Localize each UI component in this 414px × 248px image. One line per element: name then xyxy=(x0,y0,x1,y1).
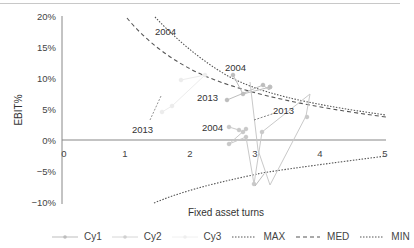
annotation-cy2-2004: 2004 xyxy=(202,122,223,133)
x-axis-label: Fixed asset turns xyxy=(188,207,264,218)
y-tick: 15% xyxy=(37,42,57,53)
legend-label: Cy2 xyxy=(144,231,162,242)
cy2-connector xyxy=(255,174,264,186)
legend-label: MED xyxy=(327,231,349,242)
cy2-leader xyxy=(254,113,275,120)
cy2-series xyxy=(227,82,310,186)
legend: Cy1 Cy2 Cy3 MAX MED MIN xyxy=(52,231,414,242)
max-swatch-icon xyxy=(231,233,257,241)
cy3-leader xyxy=(150,96,161,120)
x-tick: 5 xyxy=(382,148,387,159)
legend-item-max: MAX xyxy=(231,231,285,242)
legend-label: Cy1 xyxy=(84,231,102,242)
x-tick: 0 xyxy=(61,148,66,159)
legend-item-med: MED xyxy=(295,231,349,242)
x-tick: 1 xyxy=(122,148,127,159)
legend-label: MAX xyxy=(263,231,285,242)
cy2-swatch-icon xyxy=(112,233,138,241)
x-tick: 4 xyxy=(317,148,322,159)
y-tick: −5% xyxy=(37,166,57,177)
chart-plot: 20% 15% 10% 5% 0% −5% −10% 0 1 2 3 4 5 E… xyxy=(0,0,400,225)
legend-item-cy1: Cy1 xyxy=(52,231,102,242)
y-tick: −10% xyxy=(31,197,56,208)
y-tick: 10% xyxy=(37,73,57,84)
cy3-swatch-icon xyxy=(172,233,198,241)
y-tick: 5% xyxy=(42,104,56,115)
min-curve xyxy=(154,156,386,203)
x-tick: 3 xyxy=(252,148,257,159)
annotation-cy3-2013: 2013 xyxy=(132,124,153,135)
legend-item-min: MIN xyxy=(359,231,409,242)
cy1-swatch-icon xyxy=(52,233,78,241)
y-tick: 0% xyxy=(42,135,56,146)
x-tick: 2 xyxy=(187,148,192,159)
legend-label: Cy3 xyxy=(204,231,222,242)
legend-item-cy2: Cy2 xyxy=(112,231,162,242)
y-tick: 20% xyxy=(37,11,57,22)
min-swatch-icon xyxy=(359,233,385,241)
annotation-max-2004: 2004 xyxy=(155,26,176,37)
med-swatch-icon xyxy=(295,233,321,241)
y-axis-label: EBIT% xyxy=(13,94,24,125)
cy1-series xyxy=(225,73,272,102)
legend-label: MIN xyxy=(391,231,409,242)
annotation-cy1-2013: 2013 xyxy=(197,92,218,103)
annotation-cy2-2013: 2013 xyxy=(273,105,294,116)
annotation-cy1-2004: 2004 xyxy=(225,62,246,73)
legend-item-cy3: Cy3 xyxy=(172,231,222,242)
max-curve xyxy=(155,17,386,115)
